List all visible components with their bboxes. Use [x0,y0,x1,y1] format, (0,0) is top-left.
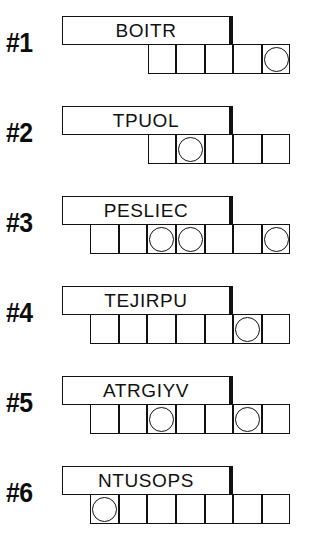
puzzle-row: #1BOITR [0,0,310,90]
scrambled-word-text: TPUOL [63,107,229,134]
scrambled-word-box: TPUOL [62,106,233,135]
answer-cell[interactable] [119,494,148,524]
puzzle-row: #4TEJIRPU [0,270,310,360]
answer-cell[interactable] [119,314,148,344]
answer-cell[interactable] [147,224,176,254]
answer-cell[interactable] [233,44,262,74]
answer-cell[interactable] [176,314,205,344]
scrambled-word-box: NTUSOPS [62,466,233,495]
answer-cell[interactable] [147,404,176,434]
answer-grid [90,314,290,344]
answer-grid [90,404,290,434]
circle-icon [92,497,117,522]
circle-icon [178,227,203,252]
puzzle-number-label: #4 [6,296,56,330]
answer-cell[interactable] [233,224,262,254]
answer-cell[interactable] [90,314,119,344]
answer-grid [148,134,291,164]
answer-cell[interactable] [233,494,262,524]
answer-cell[interactable] [233,134,262,164]
answer-grid [90,494,290,524]
answer-cell[interactable] [262,404,291,434]
scrambled-word-box: ATRGIYV [62,376,233,405]
answer-cell[interactable] [205,404,234,434]
puzzle-sheet: #1BOITR#2TPUOL#3PESLIEC#4TEJIRPU#5ATRGIY… [0,0,310,540]
answer-cell[interactable] [176,494,205,524]
answer-cell[interactable] [262,134,291,164]
puzzle-row: #3PESLIEC [0,180,310,270]
answer-cell[interactable] [148,134,177,164]
puzzle-row: #6NTUSOPS [0,450,310,540]
scrambled-word-text: BOITR [63,17,229,44]
scrambled-word-text: PESLIEC [63,197,229,224]
answer-cell[interactable] [90,494,119,524]
answer-cell[interactable] [176,224,205,254]
puzzle-number-label: #5 [6,386,56,420]
answer-grid [148,44,291,74]
answer-cell[interactable] [176,134,205,164]
answer-cell[interactable] [119,224,148,254]
answer-grid [90,224,290,254]
scrambled-word-text: ATRGIYV [63,377,229,404]
circle-icon [264,227,289,252]
answer-cell[interactable] [262,494,291,524]
scrambled-word-text: TEJIRPU [63,287,229,314]
answer-cell[interactable] [119,404,148,434]
answer-cell[interactable] [262,44,291,74]
puzzle-row: #5ATRGIYV [0,360,310,450]
answer-cell[interactable] [205,134,234,164]
answer-cell[interactable] [205,494,234,524]
circle-icon [149,407,174,432]
answer-cell[interactable] [176,44,205,74]
answer-cell[interactable] [205,44,234,74]
answer-cell[interactable] [262,224,291,254]
answer-cell[interactable] [205,224,234,254]
circle-icon [178,137,203,162]
puzzle-number-label: #3 [6,206,56,240]
scrambled-word-box: TEJIRPU [62,286,233,315]
scrambled-word-box: PESLIEC [62,196,233,225]
circle-icon [235,407,260,432]
scrambled-word-box: BOITR [62,16,233,45]
answer-cell[interactable] [262,314,291,344]
answer-cell[interactable] [90,404,119,434]
answer-cell[interactable] [205,314,234,344]
puzzle-number-label: #6 [6,476,56,510]
answer-cell[interactable] [147,314,176,344]
circle-icon [149,227,174,252]
puzzle-number-label: #2 [6,116,56,150]
scrambled-word-text: NTUSOPS [63,467,229,494]
answer-cell[interactable] [176,404,205,434]
answer-cell[interactable] [148,44,177,74]
puzzle-number-label: #1 [6,26,56,60]
answer-cell[interactable] [233,404,262,434]
answer-cell[interactable] [147,494,176,524]
circle-icon [235,317,260,342]
puzzle-row: #2TPUOL [0,90,310,180]
answer-cell[interactable] [90,224,119,254]
circle-icon [264,47,289,72]
answer-cell[interactable] [233,314,262,344]
